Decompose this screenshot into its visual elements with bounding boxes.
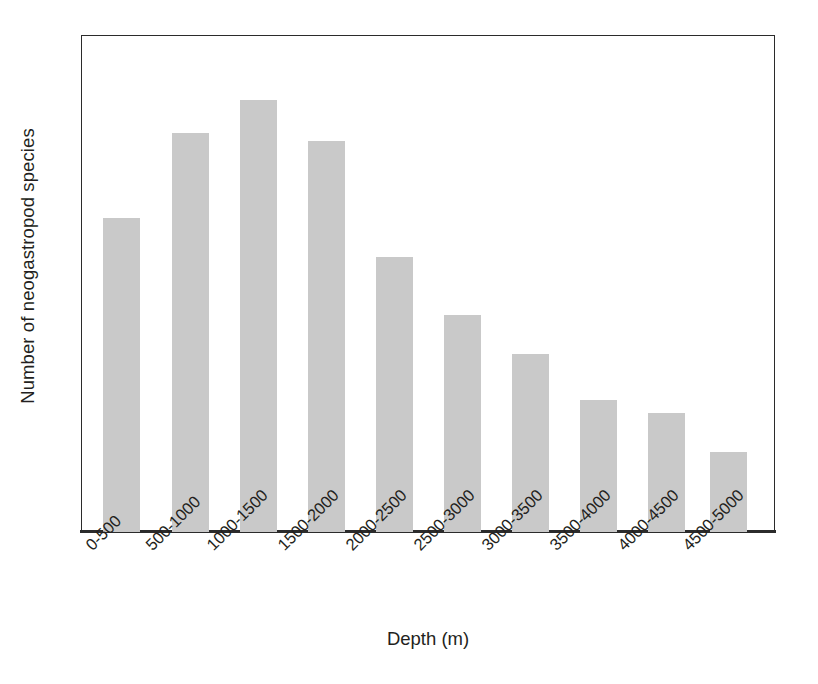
bar-chart-figure: Number of neogastropod species 0-500500-… [0, 0, 818, 684]
x-tick-label: 4000-4500 [614, 486, 683, 555]
x-tick-label: 2000-2500 [342, 486, 411, 555]
x-tick-labels: 0-500500-10001000-15001500-20002000-2500… [0, 0, 818, 684]
x-tick-label: 2500-3000 [410, 486, 479, 555]
x-tick-label: 0-500 [82, 512, 125, 555]
x-tick-label: 3000-3500 [478, 486, 547, 555]
x-tick-label: 4500-5000 [679, 486, 748, 555]
x-axis-title: Depth (m) [81, 628, 775, 650]
x-tick-label: 1500-2000 [274, 486, 343, 555]
x-tick-label: 1000-1500 [203, 486, 272, 555]
x-tick-label: 3500-4000 [546, 486, 615, 555]
x-tick-label: 500-1000 [142, 492, 204, 554]
